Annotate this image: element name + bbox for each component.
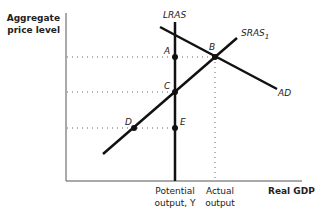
lras-label: LRAS <box>163 10 186 20</box>
point-a <box>172 54 178 60</box>
point-e <box>172 125 178 131</box>
point-b-label: B <box>209 42 215 52</box>
point-c-label: C <box>164 81 171 91</box>
y-axis-label-line1: Aggregate <box>7 13 60 23</box>
sras-subscript: 1 <box>265 33 269 41</box>
sras1-label: SRAS1 <box>241 28 269 41</box>
as-ad-diagram: A B C D E LRAS SRAS1 AD Aggregate price … <box>0 0 323 219</box>
actual-output-label-line2: output <box>205 198 235 208</box>
y-axis-label-line2: price level <box>7 25 60 35</box>
point-b <box>212 54 218 60</box>
potential-output-label-line1: Potential <box>155 186 194 196</box>
sras-label-text: SRAS <box>241 28 265 38</box>
potential-output-label-line2: output, Y <box>155 198 196 208</box>
point-a-label: A <box>163 46 170 56</box>
actual-output-label-line1: Actual <box>206 186 234 196</box>
point-c <box>172 89 178 95</box>
point-e-label: E <box>180 117 186 127</box>
ad-label: AD <box>277 88 291 98</box>
point-d-label: D <box>125 117 132 127</box>
x-axis-label: Real GDP <box>268 186 315 196</box>
